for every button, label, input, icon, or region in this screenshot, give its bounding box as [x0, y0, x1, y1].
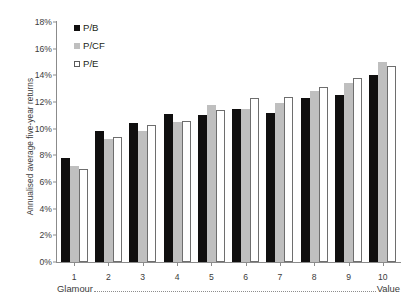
range-annotation: Glamour Value — [57, 283, 400, 294]
bar-group: 8 — [297, 22, 331, 262]
bar-group: 4 — [160, 22, 194, 262]
x-axis-tick-mark — [108, 262, 109, 266]
bar-pcf-8[interactable] — [310, 91, 319, 262]
x-axis-tick-mark — [143, 262, 144, 266]
bar-pcf-3[interactable] — [138, 131, 147, 262]
bar-chart: Annualised average five-year returns 0%2… — [0, 0, 410, 303]
bar-pe-1[interactable] — [79, 169, 88, 262]
x-axis-tick-label: 1 — [72, 272, 77, 282]
bar-group: 3 — [126, 22, 160, 262]
bar-pb-1[interactable] — [61, 158, 70, 262]
x-axis-tick-mark — [74, 262, 75, 266]
bar-pb-3[interactable] — [129, 123, 138, 262]
range-label-left: Glamour — [57, 283, 93, 294]
bar-pcf-6[interactable] — [241, 109, 250, 262]
bar-groups: 12345678910 — [57, 22, 400, 262]
legend-label-pcf: P/CF — [83, 40, 105, 51]
x-axis-tick-mark — [280, 262, 281, 266]
bar-pcf-2[interactable] — [104, 139, 113, 262]
x-axis-tick-label: 10 — [378, 272, 388, 282]
x-axis-tick-label: 5 — [209, 272, 214, 282]
legend-item-pb: P/B — [74, 22, 105, 33]
x-axis-tick-label: 3 — [140, 272, 145, 282]
bar-pe-2[interactable] — [113, 137, 122, 262]
x-axis-tick-label: 4 — [175, 272, 180, 282]
x-axis-tick-mark — [314, 262, 315, 266]
bar-pb-6[interactable] — [232, 109, 241, 262]
x-axis-tick-label: 9 — [346, 272, 351, 282]
x-axis-tick-label: 2 — [106, 272, 111, 282]
bar-group: 9 — [331, 22, 365, 262]
chart-legend: P/B P/CF P/E — [74, 22, 105, 69]
bar-pb-8[interactable] — [301, 98, 310, 262]
legend-swatch-pe-icon — [74, 61, 80, 67]
bar-pe-4[interactable] — [182, 121, 191, 262]
bar-pcf-1[interactable] — [70, 166, 79, 262]
bar-pe-3[interactable] — [147, 125, 156, 262]
x-axis-tick-mark — [349, 262, 350, 266]
x-axis-tick-label: 8 — [312, 272, 317, 282]
bar-pcf-5[interactable] — [207, 105, 216, 262]
bar-group: 5 — [194, 22, 228, 262]
x-axis-tick-label: 7 — [278, 272, 283, 282]
x-axis-tick-mark — [246, 262, 247, 266]
bar-pcf-4[interactable] — [173, 122, 182, 262]
range-dotted-line — [94, 284, 376, 292]
bar-group: 10 — [366, 22, 400, 262]
x-axis-tick-mark — [383, 262, 384, 266]
legend-label-pe: P/E — [83, 58, 98, 69]
bar-pe-8[interactable] — [319, 87, 328, 262]
bar-pb-4[interactable] — [164, 114, 173, 262]
bar-pcf-10[interactable] — [378, 62, 387, 262]
bar-pe-10[interactable] — [387, 66, 396, 262]
plot-area: 0%2%4%6%8%10%12%14%16%18% 12345678910 — [57, 22, 400, 262]
bar-pb-10[interactable] — [369, 75, 378, 262]
legend-swatch-pcf-icon — [74, 43, 80, 49]
bar-pcf-7[interactable] — [275, 103, 284, 262]
bar-pe-6[interactable] — [250, 98, 259, 262]
bar-pe-9[interactable] — [353, 78, 362, 262]
bar-pcf-9[interactable] — [344, 83, 353, 262]
range-label-right: Value — [377, 283, 400, 294]
bar-pb-7[interactable] — [266, 113, 275, 262]
legend-item-pe: P/E — [74, 58, 105, 69]
bar-pe-7[interactable] — [284, 97, 293, 262]
bar-pb-5[interactable] — [198, 115, 207, 262]
legend-label-pb: P/B — [83, 22, 98, 33]
bar-pe-5[interactable] — [216, 110, 225, 262]
x-axis-tick-mark — [211, 262, 212, 266]
legend-item-pcf: P/CF — [74, 40, 105, 51]
bar-group: 7 — [263, 22, 297, 262]
y-axis-title: Annualised average five-year returns — [26, 32, 35, 262]
bar-group: 6 — [228, 22, 262, 262]
legend-swatch-pb-icon — [74, 25, 80, 31]
bar-pb-2[interactable] — [95, 131, 104, 262]
bar-pb-9[interactable] — [335, 95, 344, 262]
x-axis-tick-mark — [177, 262, 178, 266]
x-axis-tick-label: 6 — [243, 272, 248, 282]
